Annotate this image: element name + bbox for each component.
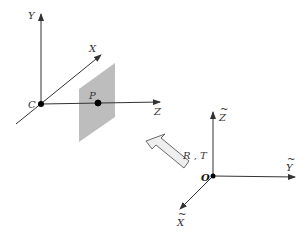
transform-label: R , T (182, 150, 208, 161)
camera-origin-point (38, 101, 44, 107)
camera-origin-label: C (28, 99, 36, 110)
point-p (95, 100, 101, 106)
world-origin-point (211, 174, 216, 179)
camera-x-label: X (88, 43, 97, 54)
coordinate-transform-diagram: Y X Z C P R , T O Z ~ Y ~ X ~ (0, 0, 305, 240)
world-origin-label: O (201, 172, 210, 183)
world-y-tilde-accent: ~ (287, 153, 295, 164)
camera-z-label: Z (153, 106, 162, 117)
world-z-tilde-accent: ~ (220, 103, 228, 114)
world-y-axis (213, 176, 295, 177)
world-x-tilde-accent: ~ (178, 208, 186, 219)
point-p-label: P (88, 90, 96, 101)
camera-y-label: Y (28, 10, 36, 21)
